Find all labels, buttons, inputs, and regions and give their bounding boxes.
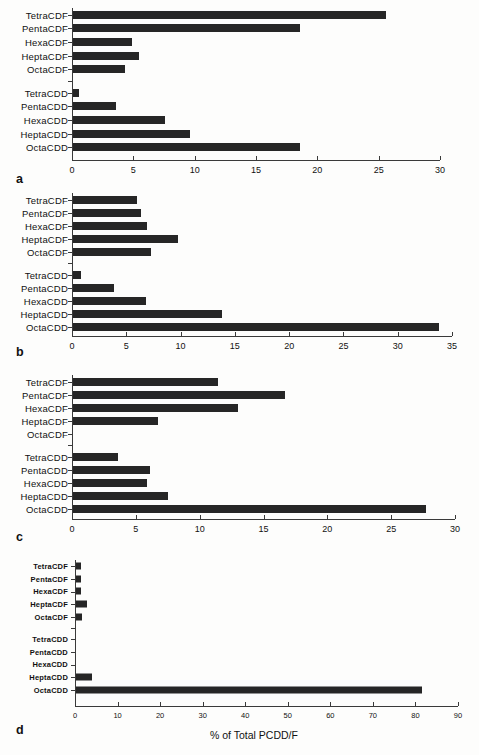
y-axis-tick — [71, 652, 75, 653]
bar-track — [75, 671, 458, 684]
x-axis-tick — [391, 515, 392, 519]
y-axis-tick — [68, 509, 72, 510]
x-axis-tick-label: 20 — [312, 165, 322, 175]
y-axis-tick — [68, 327, 72, 328]
category-label: HeptaCDD — [20, 128, 68, 139]
bar-track — [72, 450, 455, 463]
bar-track — [75, 633, 458, 646]
category-label: OctaCDF — [35, 612, 69, 621]
x-axis-tick-label: 20 — [156, 711, 164, 720]
figure-pcdd-pcdf-profiles: TetraCDFPentaCDFHexaCDFHeptaCDFOctaCDFTe… — [0, 0, 479, 755]
y-axis-line — [75, 560, 76, 706]
bar-heptacdd — [75, 674, 92, 681]
bar-track — [72, 489, 455, 502]
panel-letter-c: c — [16, 530, 23, 544]
category-label-wrap: PentaCDF — [0, 388, 68, 401]
bar-track — [72, 414, 455, 427]
x-axis-tick — [181, 332, 182, 336]
y-axis-tick — [68, 56, 72, 57]
category-label: PentaCDF — [22, 207, 68, 218]
category-label-wrap: OctaCDF — [0, 427, 68, 440]
category-label: OctaCDD — [26, 503, 68, 514]
bar-track — [72, 463, 455, 476]
category-label: OctaCDF — [27, 428, 68, 439]
category-label-wrap: OctaCDF — [0, 245, 68, 258]
y-axis-line — [72, 193, 73, 336]
y-axis-tick — [68, 314, 72, 315]
x-axis-tick — [126, 332, 127, 336]
x-axis-tick — [288, 702, 289, 706]
bar-pentacdf — [72, 24, 300, 32]
category-label: PentaCDD — [21, 464, 68, 475]
category-label-wrap: HexaCDF — [0, 401, 68, 414]
bar-track — [75, 573, 458, 586]
bar-hexacdf — [72, 222, 147, 230]
bar-hexacdf — [72, 404, 238, 412]
bar-pentacdd — [72, 102, 116, 110]
bar-track — [72, 294, 452, 307]
x-axis-tick-label: 20 — [284, 341, 294, 351]
bar-track — [72, 193, 452, 206]
x-axis-tick-label: 60 — [326, 711, 334, 720]
bar-track — [72, 35, 440, 49]
category-label-wrap: OctaCDF — [0, 62, 68, 76]
category-label: TetraCDF — [33, 562, 68, 571]
category-label-wrap: HeptaCDF — [0, 49, 68, 63]
bar-pentacdf — [72, 391, 285, 399]
x-axis-tick-label: 15 — [258, 524, 268, 534]
x-axis-tick — [160, 702, 161, 706]
bar-track — [72, 401, 455, 414]
x-axis-tick-label: 0 — [69, 165, 74, 175]
x-axis-tick-label: 30 — [450, 524, 460, 534]
bar-track — [72, 476, 455, 489]
x-axis-tick-label: 30 — [435, 165, 445, 175]
y-axis-tick — [68, 445, 72, 446]
y-axis-tick — [71, 592, 75, 593]
y-axis-tick — [68, 252, 72, 253]
y-axis-tick — [68, 106, 72, 107]
bar-track — [75, 585, 458, 598]
x-axis-tick-label: 40 — [241, 711, 249, 720]
bar-pentacdd — [72, 466, 150, 474]
category-label: OctaCDD — [26, 321, 68, 332]
category-label-wrap: HeptaCDF — [0, 414, 68, 427]
bar-track — [75, 598, 458, 611]
bar-track — [72, 62, 440, 76]
category-label-wrap: HexaCDD — [0, 294, 68, 307]
x-axis-tick-label: 70 — [369, 711, 377, 720]
category-label: TetraCDF — [26, 9, 68, 20]
category-label: PentaCDF — [22, 23, 68, 34]
y-axis-tick — [71, 566, 75, 567]
category-label-wrap: HexaCDD — [0, 476, 68, 489]
x-axis-tick-label: 0 — [69, 341, 74, 351]
category-label-wrap: OctaCDF — [0, 610, 68, 623]
bar-tetracdd — [72, 89, 79, 97]
y-axis-tick — [68, 239, 72, 240]
y-axis-tick — [68, 483, 72, 484]
bar-heptacdf — [75, 601, 87, 608]
category-label-wrap: PentaCDD — [0, 646, 68, 659]
y-axis-tick — [71, 628, 75, 629]
x-axis-tick-label: 50 — [284, 711, 292, 720]
category-label: HeptaCDD — [20, 490, 68, 501]
bar-octacdf — [72, 248, 151, 256]
bar-octacdd — [72, 323, 439, 331]
y-axis-tick — [71, 639, 75, 640]
bar-octacdd — [75, 686, 422, 693]
bar-track — [72, 232, 452, 245]
category-label: HexaCDF — [25, 220, 68, 231]
category-label: HexaCDD — [24, 477, 68, 488]
category-label: PentaCDF — [31, 574, 68, 583]
y-axis-tick — [68, 457, 72, 458]
x-axis-tick — [440, 156, 441, 160]
category-label-wrap: HeptaCDD — [0, 671, 68, 684]
x-axis-tick-label: 5 — [124, 341, 129, 351]
category-label: HexaCDD — [32, 660, 68, 669]
category-label-wrap: HeptaCDF — [0, 232, 68, 245]
bar-tetracdf — [72, 378, 218, 386]
bar-track — [72, 49, 440, 63]
x-axis-tick — [72, 515, 73, 519]
x-axis-tick-label: 10 — [113, 711, 121, 720]
bar-tetracdd — [72, 453, 118, 461]
x-axis-line — [72, 336, 452, 337]
